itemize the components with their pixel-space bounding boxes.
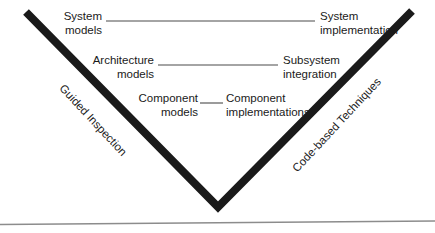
stage-label-line-2: implementation xyxy=(320,24,432,38)
stage-label-line-1: Component xyxy=(226,92,344,106)
stage-label-line-1: Subsystem xyxy=(283,54,379,68)
stage-label-line-1: Architecture xyxy=(66,54,154,68)
stage-label-line-2: models xyxy=(110,106,198,120)
stage-label-line-1: Component xyxy=(110,92,198,106)
v-model-diagram: System models System implementation Arch… xyxy=(0,0,435,233)
stage-label-line-2: integration xyxy=(283,68,379,82)
stage-label-system-models: System models xyxy=(14,10,102,37)
stage-label-line-2: models xyxy=(14,24,102,38)
stage-label-line-1: System xyxy=(320,10,432,24)
stage-label-component-implementations: Component implementations xyxy=(226,92,344,119)
stage-label-component-models: Component models xyxy=(110,92,198,119)
baseline-rule xyxy=(0,221,435,225)
stage-label-line-2: implementations xyxy=(226,106,344,120)
stage-label-system-implementation: System implementation xyxy=(320,10,432,37)
stage-label-architecture-models: Architecture models xyxy=(66,54,154,81)
stage-label-subsystem-integration: Subsystem integration xyxy=(283,54,379,81)
stage-label-line-2: models xyxy=(66,68,154,82)
stage-label-line-1: System xyxy=(14,10,102,24)
